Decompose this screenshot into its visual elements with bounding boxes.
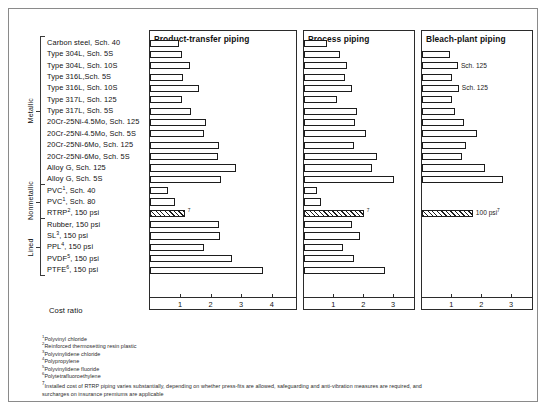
bar <box>422 51 450 58</box>
axis-tick <box>272 294 273 297</box>
bar <box>422 96 452 103</box>
axis-tick-label: 3 <box>231 300 251 309</box>
bar <box>150 176 222 183</box>
bar <box>150 142 220 149</box>
bar <box>150 119 207 126</box>
group-bracket-tick <box>36 247 41 248</box>
bar <box>304 153 377 160</box>
panel-axis <box>304 297 415 298</box>
bar <box>422 153 462 160</box>
footnote-marker: 7 <box>497 208 500 213</box>
footnote: 5Polyvinylidene fluoride <box>42 366 99 373</box>
bar <box>150 85 200 92</box>
axis-tick-label: 4 <box>262 300 282 309</box>
bar <box>422 176 503 183</box>
row-label: Type 317L, Sch. 125 <box>47 95 145 104</box>
footnote-marker: 7 <box>188 208 191 213</box>
bar <box>304 51 340 58</box>
bar <box>150 108 191 115</box>
footnote-marker: 5 <box>67 252 70 258</box>
bar <box>422 74 452 81</box>
group-bracket-tick <box>36 111 41 112</box>
footnote-marker: 6 <box>42 371 44 376</box>
footnote-marker: 1 <box>63 195 66 201</box>
row-label: Type 316L, Sch. 10S <box>47 83 145 92</box>
bar <box>150 96 182 103</box>
row-label: SL3, 150 psi <box>47 231 145 240</box>
footnote-marker: 6 <box>66 264 69 270</box>
footnote-marker: 1 <box>63 184 66 190</box>
footnote-marker: 7 <box>367 208 370 213</box>
footnote: 2Reinforced thermosetting resin plastic <box>42 343 136 350</box>
row-label: 20Cr-25Ni-4.5Mo, Sch. 5S <box>47 129 145 138</box>
row-label: Type 304L, Sch. 10S <box>47 61 145 70</box>
bar <box>304 74 345 81</box>
bar-annotation: Sch. 125 <box>461 62 487 69</box>
footnote-marker: 7 <box>42 381 45 386</box>
axis-tick <box>511 294 512 297</box>
row-label: Alloy G, Sch. 125 <box>47 163 145 172</box>
axis-tick-label: 2 <box>201 300 221 309</box>
bar-annotation: 7 <box>367 209 370 216</box>
bar <box>304 164 373 171</box>
bar <box>422 108 455 115</box>
bar <box>304 62 347 69</box>
row-label: 20Cr-25Ni-6Mo, Sch. 125 <box>47 140 145 149</box>
group-bracket-tick <box>36 202 41 203</box>
bar <box>422 119 464 126</box>
footnote-marker: 1 <box>42 334 44 339</box>
bar <box>422 142 467 149</box>
figure-frame: Carbon steel, Sch. 40Type 304L, Sch. 5ST… <box>8 8 538 402</box>
footnote-marker: 3 <box>42 349 44 354</box>
bar <box>304 267 385 274</box>
chart-plot-area: Carbon steel, Sch. 40Type 304L, Sch. 5ST… <box>9 9 539 403</box>
bar <box>304 187 317 194</box>
bar <box>150 164 236 171</box>
bar <box>150 153 219 160</box>
footnote-marker: 4 <box>42 356 44 361</box>
bar <box>150 51 182 58</box>
bar <box>304 232 360 239</box>
row-label: PVC1, Sch. 40 <box>47 186 145 195</box>
row-label: Alloy G, Sch. 5S <box>47 174 145 183</box>
row-label: Rubber, 150 psi <box>47 220 145 229</box>
bar-annotation: 100 psi7 <box>476 209 500 216</box>
row-label: Type 304L, Sch. 5S <box>47 49 145 58</box>
bar <box>304 255 355 262</box>
axis-tick <box>393 294 394 297</box>
row-label: PPL4, 150 psi <box>47 242 145 251</box>
bar <box>150 255 233 262</box>
footnote: 6Polytetrafluoroethylene <box>42 373 101 380</box>
bar <box>150 74 183 81</box>
footnote-marker: 4 <box>61 241 64 247</box>
bar <box>150 130 204 137</box>
row-label: 20Cr-25Ni-6Mo, Sch. 5S <box>47 152 145 161</box>
footnote-marker: 2 <box>67 207 70 213</box>
bar <box>304 142 354 149</box>
footnote-marker: 2 <box>42 342 44 347</box>
axis-tick-label: 2 <box>353 300 373 309</box>
bar-hatched <box>304 210 364 217</box>
bar <box>150 232 220 239</box>
bar <box>150 62 190 69</box>
bar <box>422 62 458 69</box>
row-label: 20Cr-25Ni-4.5Mo, Sch. 125 <box>47 117 145 126</box>
row-label: PTFE6, 150 psi <box>47 265 145 274</box>
bar <box>304 130 366 137</box>
cost-ratio-label: Cost ratio <box>49 306 83 315</box>
row-label: Type 317L, Sch. 5S <box>47 106 145 115</box>
bar-hatched <box>422 210 473 217</box>
bar <box>304 40 328 47</box>
bar <box>422 85 459 92</box>
bar-hatched <box>150 210 185 217</box>
axis-tick <box>333 294 334 297</box>
row-label: PVDF5, 150 psi <box>47 254 145 263</box>
row-label: Type 316L,Sch. 5S <box>47 72 145 81</box>
bar <box>150 267 264 274</box>
bar-annotation: 7 <box>188 209 191 216</box>
footnote-marker: 5 <box>42 364 44 369</box>
axis-tick <box>241 294 242 297</box>
bar <box>304 221 352 228</box>
axis-tick-label: 3 <box>501 300 521 309</box>
axis-tick <box>180 294 181 297</box>
